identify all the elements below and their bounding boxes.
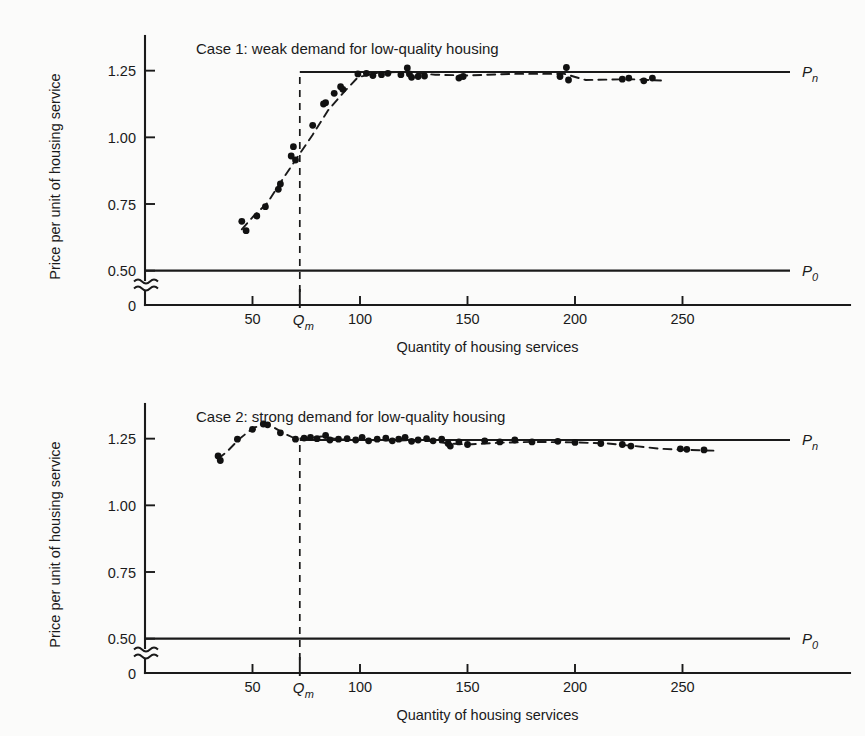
pn-line-label-subscript: n <box>812 440 818 452</box>
y-tick-label: 0.75 <box>108 197 136 213</box>
p0-line-label-base: P <box>802 630 812 647</box>
scatter-point <box>322 99 329 106</box>
scatter-point <box>421 73 428 80</box>
qm-tick-label-base: Q <box>293 311 305 328</box>
scatter-point <box>402 434 409 441</box>
scatter-point <box>640 77 647 84</box>
scatter-point <box>314 435 321 442</box>
scatter-point <box>597 440 604 447</box>
scatter-point <box>398 71 405 78</box>
scatter-point <box>511 437 518 444</box>
x-tick-label: 100 <box>348 311 372 327</box>
x-axis-title: Quantity of housing services <box>396 707 578 723</box>
scatter-point <box>395 436 402 443</box>
scatter-point <box>262 203 269 210</box>
scatter-point <box>683 446 690 453</box>
x-tick-label: 250 <box>670 311 694 327</box>
scatter-point <box>292 436 299 443</box>
scatter-point <box>625 75 632 82</box>
qm-tick-label-subscript: m <box>305 320 314 332</box>
scatter-point <box>249 426 256 433</box>
scatter-point <box>355 71 362 78</box>
pn-line-label: Pn <box>802 63 818 84</box>
y-tick-label: 1.00 <box>108 130 136 146</box>
qm-tick-label: Qm <box>293 679 314 700</box>
scatter-point <box>389 437 396 444</box>
y-tick-label: 1.25 <box>108 63 136 79</box>
qm-tick-label-subscript: m <box>305 688 314 700</box>
scatter-point <box>382 435 389 442</box>
y-axis-title: Price per unit of housing service <box>47 73 63 279</box>
chart-panel-case-2: 501001502002500.500.751.001.250Case 2: s… <box>0 368 865 736</box>
y-tick-label: 0.50 <box>108 263 136 279</box>
y-origin-label: 0 <box>128 666 136 682</box>
scatter-point <box>701 447 708 454</box>
scatter-point <box>554 438 561 445</box>
scatter-point <box>628 443 635 450</box>
scatter-point <box>565 77 572 84</box>
qm-tick-label-base: Q <box>293 679 305 696</box>
scatter-point <box>572 439 579 446</box>
x-axis-title: Quantity of housing services <box>396 339 578 355</box>
x-tick-label: 50 <box>244 311 260 327</box>
y-origin-label: 0 <box>128 298 136 314</box>
scatter-point <box>563 64 570 71</box>
scatter-point <box>217 457 224 464</box>
scatter-point <box>557 73 564 80</box>
chart-svg-case-2: 501001502002500.500.751.001.250Case 2: s… <box>0 368 865 736</box>
scatter-point <box>464 441 471 448</box>
panel-title: Case 2: strong demand for low-quality ho… <box>196 408 505 425</box>
scatter-point <box>363 70 370 77</box>
p0-line-label-base: P <box>802 262 812 279</box>
p0-line-label: P0 <box>802 630 819 651</box>
y-tick-label: 0.75 <box>108 565 136 581</box>
pn-line-label-subscript: n <box>812 72 818 84</box>
break-squiggle <box>134 287 158 291</box>
scatter-point <box>234 436 241 443</box>
qm-tick-label: Qm <box>293 311 314 332</box>
x-tick-label: 250 <box>670 679 694 695</box>
scatter-point <box>309 122 316 129</box>
x-tick-label: 200 <box>563 311 587 327</box>
break-squiggle <box>134 655 158 659</box>
pn-line-label-base: P <box>802 431 812 448</box>
scatter-point <box>415 437 422 444</box>
scatter-point <box>307 434 314 441</box>
x-tick-label: 100 <box>348 679 372 695</box>
scatter-point <box>238 218 245 225</box>
chart-panel-case-1: 501001502002500.500.751.001.250Case 1: w… <box>0 0 865 368</box>
scatter-point <box>344 435 351 442</box>
scatter-point <box>359 434 366 441</box>
scatter-point <box>327 437 334 444</box>
scatter-point <box>277 181 284 188</box>
scatter-point <box>370 72 377 79</box>
scatter-point <box>290 143 297 150</box>
p0-line-label: P0 <box>802 262 819 283</box>
scatter-point <box>438 436 445 443</box>
scatter-point <box>649 75 656 82</box>
scatter-point <box>447 443 454 450</box>
p0-line-label-subscript: 0 <box>812 639 819 651</box>
scatter-point <box>253 213 260 220</box>
y-tick-label: 1.00 <box>108 498 136 514</box>
scatter-point <box>404 65 411 72</box>
scatter-point <box>481 437 488 444</box>
scatter-point <box>415 73 422 80</box>
y-tick-label: 1.25 <box>108 431 136 447</box>
pn-line-label-base: P <box>802 63 812 80</box>
pn-line-label: Pn <box>802 431 818 452</box>
scatter-point-group <box>215 421 708 464</box>
scatter-point <box>677 445 684 452</box>
scatter-point <box>352 437 359 444</box>
x-tick-label: 150 <box>455 311 479 327</box>
scatter-point <box>408 438 415 445</box>
scatter-point <box>365 437 372 444</box>
scatter-point <box>378 71 385 78</box>
scatter-point <box>335 436 342 443</box>
scatter-point <box>460 73 467 80</box>
scatter-point <box>301 435 308 442</box>
scatter-point <box>331 90 338 97</box>
scatter-point <box>619 441 626 448</box>
scatter-point <box>619 76 626 83</box>
fitted-curve <box>242 72 661 229</box>
